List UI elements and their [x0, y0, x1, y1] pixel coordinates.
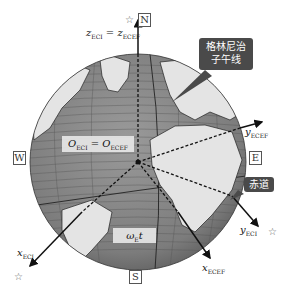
callout-line: 子午线 — [199, 53, 253, 66]
eci-ecef-diagram: N S E W ☆ ☆ ☆ zECI = zECEF yECEF yECI xE… — [0, 0, 285, 294]
south-marker: S — [129, 270, 142, 284]
west-marker: W — [13, 151, 26, 165]
x-eci-label: xECI — [17, 247, 34, 260]
equator-callout: 赤道 — [244, 177, 274, 192]
x-ecef-label: xECEF — [202, 262, 225, 275]
rotation-angle-label: ωEt — [113, 228, 156, 243]
callout-line: 格林尼治 — [199, 40, 253, 53]
y-ecef-label: yECEF — [245, 126, 268, 139]
star-icon: ☆ — [14, 271, 23, 282]
y-eci-label: yECI — [240, 224, 257, 237]
star-icon: ☆ — [268, 226, 277, 237]
z-axis-label: zECI = zECEF — [86, 27, 140, 40]
star-icon: ☆ — [125, 14, 134, 25]
east-marker: E — [249, 151, 262, 165]
north-marker: N — [138, 13, 151, 27]
greenwich-meridian-callout: 格林尼治 子午线 — [199, 38, 253, 70]
origin-label: OECI = OECEF — [62, 136, 134, 152]
